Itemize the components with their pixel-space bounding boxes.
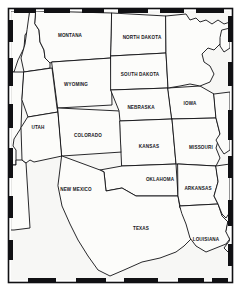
neatline-tick-bottom xyxy=(212,278,228,283)
neatline-tick-bottom xyxy=(124,278,158,283)
arizona-outline xyxy=(11,160,30,230)
neatline-tick-top xyxy=(14,9,36,14)
utah-outline xyxy=(22,68,58,117)
neatline-tick-right xyxy=(228,244,233,266)
label-north-dakota: NORTH DAKOTA xyxy=(123,35,162,40)
us-outline-map: MONTANA NORTH DAKOTA SOUTH DAKOTA WYOMIN… xyxy=(0,0,241,291)
neatline-tick-bottom xyxy=(76,278,106,283)
neatline-tick-bottom xyxy=(178,278,204,283)
neatline-tick-top xyxy=(82,9,104,14)
label-louisiana: LOUISIANA xyxy=(193,237,220,242)
label-missouri: MISSOURI xyxy=(189,145,213,150)
neatline-tick-left xyxy=(9,20,14,42)
neatline-tick-top xyxy=(196,9,224,14)
neatline-tick-right xyxy=(228,200,233,226)
label-montana: MONTANA xyxy=(58,33,83,38)
arkansas-outline xyxy=(178,164,218,206)
neatline-tick-left xyxy=(9,240,14,260)
neatline-tick-top xyxy=(160,9,184,14)
label-new-mexico: NEW MEXICO xyxy=(60,187,92,192)
neatline-tick-left xyxy=(9,148,14,178)
neatline-tick-left xyxy=(9,196,14,218)
neatline-tick-top xyxy=(118,9,148,14)
label-iowa: IOWA xyxy=(184,101,197,106)
label-south-dakota: SOUTH DAKOTA xyxy=(121,72,160,77)
map-canvas: MONTANA NORTH DAKOTA SOUTH DAKOTA WYOMIN… xyxy=(0,0,241,291)
label-wyoming: WYOMING xyxy=(64,82,88,87)
kansas-outline xyxy=(120,119,176,166)
neatline-tick-right xyxy=(228,156,233,178)
label-arkansas: ARKANSAS xyxy=(184,186,211,191)
label-colorado: COLORADO xyxy=(74,133,102,138)
new-mexico-outline xyxy=(21,112,62,163)
neatline-tick-top xyxy=(44,9,70,14)
label-texas: TEXAS xyxy=(133,226,149,231)
neatline-tick-right xyxy=(228,62,233,86)
label-nebraska: NEBRASKA xyxy=(127,105,155,110)
neatline-tick-left xyxy=(9,104,14,128)
neatline-tick-bottom xyxy=(28,278,56,283)
label-kansas: KANSAS xyxy=(139,144,159,149)
neatline-tick-right xyxy=(228,16,233,42)
label-oklahoma: OKLAHOMA xyxy=(146,177,175,182)
colorado-outline xyxy=(58,108,122,156)
missouri-outline xyxy=(172,118,220,166)
label-utah: UTAH xyxy=(31,125,45,130)
neatline-tick-left xyxy=(9,58,14,86)
minnesota-wisconsin-outline xyxy=(166,14,230,88)
neatline-tick-right xyxy=(228,110,233,140)
